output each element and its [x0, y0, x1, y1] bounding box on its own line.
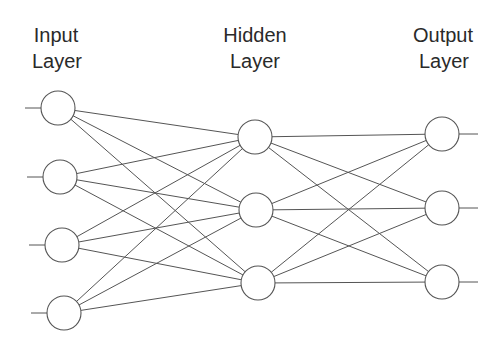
edge-input-3-to-hidden-2: [79, 213, 240, 242]
output-layer-label-line2: Layer: [419, 50, 469, 72]
hidden-layer-label-line1: Hidden: [223, 24, 286, 46]
edge-hidden-3-to-output-3: [275, 282, 425, 283]
output-node-1: [425, 117, 459, 151]
input-node-3: [45, 228, 79, 262]
edge-hidden-2-to-output-1: [272, 140, 427, 203]
hidden-node-2: [239, 193, 273, 227]
edge-input-3-to-hidden-3: [79, 248, 242, 280]
edge-input-4-to-hidden-1: [77, 149, 243, 302]
output-node-2: [425, 191, 459, 225]
input-node-1: [41, 91, 75, 125]
input-layer-label-line2: Layer: [32, 50, 82, 72]
edge-input-1-to-hidden-3: [71, 119, 245, 272]
input-node-2: [43, 160, 77, 194]
edge-hidden-1-to-output-1: [272, 134, 425, 136]
output-layer-label-line1: Output: [413, 24, 473, 46]
neural-network-diagram: Input Layer Hidden Layer Output Layer: [0, 0, 502, 347]
hidden-node-3: [241, 266, 275, 300]
edge-input-4-to-hidden-3: [81, 286, 241, 311]
edge-input-2-to-hidden-2: [77, 180, 239, 207]
edge-input-3-to-hidden-1: [77, 145, 240, 236]
output-node-3: [425, 265, 459, 299]
layer-label-input: Input Layer: [32, 24, 82, 72]
layer-label-output: Output Layer: [413, 24, 473, 72]
neurons: [41, 91, 459, 330]
hidden-layer-label-line2: Layer: [230, 50, 280, 72]
hidden-node-1: [238, 120, 272, 154]
input-layer-label-line1: Input: [34, 24, 79, 46]
input-node-4: [47, 296, 81, 330]
edge-input-1-to-hidden-1: [75, 110, 238, 134]
layer-label-hidden: Hidden Layer: [223, 24, 286, 72]
